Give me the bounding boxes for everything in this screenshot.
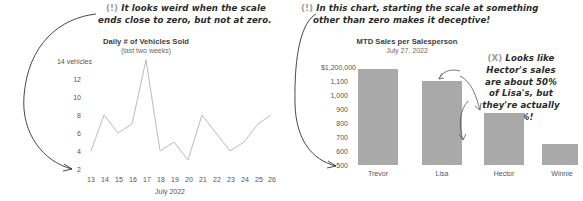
x-tick-label: Hector bbox=[484, 170, 524, 177]
line-chart-svg bbox=[0, 0, 291, 201]
line-series-vehicles bbox=[91, 60, 271, 160]
bar-hector bbox=[484, 113, 524, 165]
bar-lisa bbox=[422, 81, 462, 165]
bar-winnie bbox=[542, 144, 578, 165]
callout-arrow-left bbox=[24, 14, 96, 169]
callout-arrow-lisa-head bbox=[439, 73, 444, 79]
x-axis-label: July 2022 bbox=[130, 188, 210, 195]
line-chart-panel: (!) It looks weird when the scale ends c… bbox=[0, 0, 291, 201]
callout-arrow-lisa bbox=[439, 70, 460, 79]
callout-arrow-hector bbox=[460, 76, 480, 110]
x-tick-label: Lisa bbox=[422, 170, 462, 177]
bar-trevor bbox=[358, 69, 398, 165]
x-tick-label: Trevor bbox=[358, 170, 398, 177]
callout-arrow-right-top bbox=[295, 14, 336, 166]
bar-chart-panel: (!) In this chart, starting the scale at… bbox=[292, 0, 583, 201]
x-tick-label: Winnie bbox=[542, 170, 582, 177]
x-tick-label: 26 bbox=[264, 176, 280, 183]
